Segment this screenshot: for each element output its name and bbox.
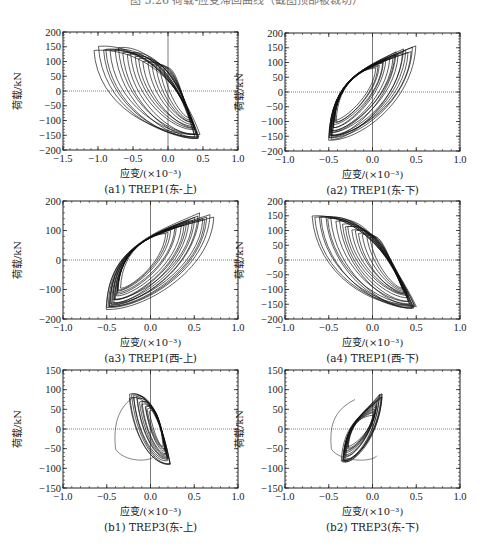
y-tick-label: 100: [267, 384, 283, 395]
y-tick-label: 200: [45, 196, 61, 207]
y-tick-label: −50: [45, 443, 61, 454]
y-axis-label: 荷载/kN: [234, 241, 245, 279]
chart-panel-a3: −1.0−0.50.00.51.0−200−1000100200应变/(×10⁻…: [8, 191, 258, 379]
y-tick-label: 100: [45, 56, 61, 67]
x-tick-label: 0.5: [410, 491, 423, 502]
hysteresis-curves: [312, 216, 416, 309]
x-tick-label: 0.5: [188, 322, 201, 333]
y-tick-label: −150: [261, 131, 283, 142]
y-tick-label: −50: [267, 101, 283, 112]
y-tick-label: −200: [261, 314, 283, 325]
figure-top-caption: 图 5.26 荷载-应变滞回曲线（截图顶部被裁切）: [0, 0, 493, 7]
y-tick-label: −150: [39, 483, 61, 494]
y-tick-label: 150: [267, 42, 283, 53]
x-tick-label: −0.5: [123, 153, 142, 164]
y-tick-label: −150: [39, 130, 61, 141]
y-tick-label: 50: [51, 71, 62, 82]
y-axis-label: 荷载/kN: [12, 72, 23, 110]
y-tick-label: 50: [273, 404, 284, 415]
y-tick-label: 50: [51, 404, 62, 415]
x-tick-label: 0.0: [366, 322, 379, 333]
hysteresis-curves: [94, 46, 200, 138]
chart-panel-a1: −1.5−1.0−0.50.00.51.0−200−150−100−500501…: [8, 22, 258, 210]
x-tick-label: 0.0: [366, 154, 379, 165]
y-tick-label: 100: [45, 384, 61, 395]
y-tick-label: −100: [261, 284, 283, 295]
y-tick-label: 50: [273, 72, 284, 83]
y-tick-label: 0: [278, 87, 283, 98]
y-axis-label: 荷载/kN: [12, 241, 23, 279]
y-tick-label: 0: [278, 255, 283, 266]
chart-panel-b1: −1.0−0.50.00.51.0−150−100−50050100150应变/…: [8, 360, 258, 548]
y-tick-label: 100: [267, 57, 283, 68]
y-tick-label: 0: [56, 424, 61, 435]
x-tick-label: 0.5: [410, 322, 423, 333]
x-axis-label: 应变/(×10⁻³): [342, 168, 404, 180]
x-tick-label: 0.0: [161, 153, 174, 164]
hysteresis-curves: [331, 394, 382, 463]
x-tick-label: −0.5: [319, 322, 338, 333]
chart-panel-a2: −1.0−0.50.00.51.0−200−150−100−5005010015…: [230, 23, 480, 211]
y-tick-label: −100: [261, 116, 283, 127]
x-tick-label: 1.0: [453, 322, 466, 333]
y-tick-label: 150: [45, 41, 61, 52]
x-tick-label: 0.0: [366, 491, 379, 502]
y-tick-label: 0: [278, 424, 283, 435]
chart-panel-b2: −1.0−0.50.00.51.0−150−100−50050100150应变/…: [230, 360, 480, 548]
y-tick-label: 50: [273, 240, 284, 251]
y-tick-label: −50: [267, 443, 283, 454]
y-tick-label: 150: [267, 365, 283, 376]
y-axis-label: 荷载/kN: [234, 73, 245, 111]
x-tick-label: 0.5: [410, 154, 423, 165]
y-tick-label: −200: [261, 146, 283, 157]
y-tick-label: 100: [45, 225, 61, 236]
y-tick-label: −100: [39, 463, 61, 474]
x-axis-label: 应变/(×10⁻³): [342, 336, 404, 348]
x-tick-label: 1.0: [453, 491, 466, 502]
subplot-caption: (b1) TREP3(东-上): [104, 521, 197, 533]
y-tick-label: 150: [45, 365, 61, 376]
y-tick-label: 150: [267, 210, 283, 221]
x-tick-label: 1.0: [453, 154, 466, 165]
y-tick-label: −150: [261, 483, 283, 494]
y-axis-label: 荷载/kN: [234, 410, 245, 448]
y-tick-label: 200: [45, 27, 61, 38]
x-tick-label: 0.5: [196, 153, 209, 164]
chart-panel-a4: −1.0−0.50.00.51.0−200−150−100−5005010015…: [230, 191, 480, 379]
y-tick-label: 100: [267, 225, 283, 236]
x-axis-label: 应变/(×10⁻³): [120, 167, 182, 179]
y-tick-label: 0: [56, 86, 61, 97]
y-tick-label: −100: [261, 463, 283, 474]
x-axis-label: 应变/(×10⁻³): [120, 505, 182, 517]
x-tick-label: −0.5: [319, 491, 338, 502]
x-tick-label: −0.5: [319, 154, 338, 165]
x-axis-label: 应变/(×10⁻³): [120, 336, 182, 348]
x-tick-label: −0.5: [97, 491, 116, 502]
y-tick-label: 200: [267, 196, 283, 207]
y-tick-label: −150: [261, 299, 283, 310]
x-tick-label: 0.5: [188, 491, 201, 502]
y-tick-label: −50: [267, 269, 283, 280]
y-tick-label: −100: [39, 115, 61, 126]
x-tick-label: −0.5: [97, 322, 116, 333]
y-tick-label: 200: [267, 28, 283, 39]
y-tick-label: −100: [39, 284, 61, 295]
y-tick-label: 0: [56, 255, 61, 266]
x-tick-label: 0.0: [144, 491, 157, 502]
y-axis-label: 荷载/kN: [12, 410, 23, 448]
hysteresis-curves: [106, 213, 214, 310]
x-tick-label: 0.0: [144, 322, 157, 333]
x-axis-label: 应变/(×10⁻³): [342, 505, 404, 517]
x-tick-label: −1.0: [88, 153, 107, 164]
y-tick-label: −200: [39, 145, 61, 156]
y-tick-label: −50: [45, 100, 61, 111]
subplot-caption: (b2) TREP3(东-下): [326, 521, 419, 533]
y-tick-label: −200: [39, 314, 61, 325]
